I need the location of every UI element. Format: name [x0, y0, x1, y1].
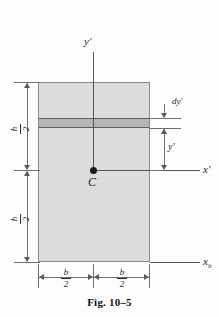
- figure-10-5: y' x' xb C h 2 h 2 dy' y' b: [0, 0, 219, 317]
- x-prime-axis-label: x': [203, 164, 210, 175]
- leader-x-prime: [149, 170, 163, 171]
- arrow-up-strip-position: [161, 129, 167, 134]
- dim-line-strip-position: [164, 129, 165, 169]
- dimension-strip-thickness-label: dy': [172, 97, 182, 106]
- arrow-down-strip-thickness: [161, 113, 167, 118]
- dimension-width-left: b 2: [60, 268, 72, 290]
- centroid-point-marker: [90, 167, 97, 174]
- arrow-down-height-upper: [24, 165, 30, 170]
- x-b-axis-line: [150, 262, 200, 263]
- arrow-right-width-left: [88, 274, 93, 280]
- x-b-axis-label: xb: [203, 256, 211, 270]
- leader-strip-top: [149, 118, 181, 119]
- ext-line-right-edge: [149, 264, 150, 288]
- arrow-left-width-left: [39, 274, 44, 280]
- arrow-down-strip-position: [161, 165, 167, 170]
- dimension-height-lower: h 2: [10, 213, 32, 225]
- differential-strip-element: [39, 118, 149, 128]
- arrow-up-height-lower: [24, 171, 30, 176]
- y-prime-axis-label: y': [84, 36, 91, 47]
- dimension-height-upper: h 2: [10, 123, 32, 135]
- dimension-strip-position-label: y': [168, 142, 175, 152]
- figure-caption: Fig. 10–5: [0, 296, 219, 308]
- dimension-width-right: b 2: [116, 268, 128, 290]
- ext-line-bottom: [14, 262, 40, 263]
- x-prime-axis-line: [94, 170, 200, 171]
- arrow-up-height-upper: [24, 83, 30, 88]
- y-prime-axis-line: [93, 52, 94, 170]
- arrow-left-width-right: [94, 274, 99, 280]
- arrow-right-width-right: [144, 274, 149, 280]
- centroid-label: C: [88, 176, 96, 188]
- arrow-down-height-lower: [24, 257, 30, 262]
